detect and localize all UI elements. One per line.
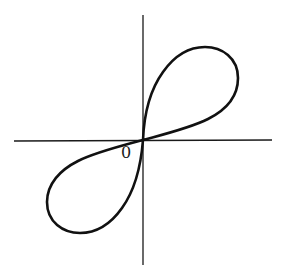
curve-diagram (0, 0, 290, 271)
origin-label: 0 (121, 145, 131, 161)
upper-right-lobe (143, 47, 238, 140)
